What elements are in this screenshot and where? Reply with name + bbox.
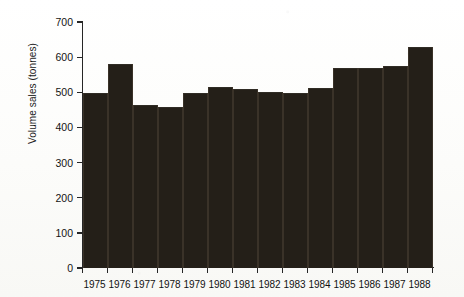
y-tick-label: 700	[55, 16, 73, 28]
x-tick-label-1980: 1980	[208, 279, 230, 290]
bar-1981	[233, 89, 258, 268]
x-tick-mark	[407, 268, 408, 273]
y-tick-mark	[77, 92, 82, 93]
x-tick-label-1977: 1977	[133, 279, 155, 290]
x-tick-mark	[282, 268, 283, 273]
y-axis-title: Volume sales (tonnes)	[27, 24, 38, 164]
x-tick-label-1985: 1985	[333, 279, 355, 290]
x-tick-mark	[257, 268, 258, 273]
x-tick-label-1984: 1984	[308, 279, 330, 290]
bar-1980	[208, 87, 233, 268]
bar-1976	[108, 64, 133, 268]
x-tick-mark	[132, 268, 133, 273]
bar-1986	[358, 68, 383, 268]
y-tick-label: 0	[67, 262, 73, 274]
y-tick-label: 500	[55, 86, 73, 98]
bar-chart-figure: Volume sales (tonnes) 010020030040050060…	[0, 0, 464, 297]
y-tick-label: 100	[55, 227, 73, 239]
y-tick-mark	[77, 21, 82, 22]
y-tick-mark	[77, 162, 82, 163]
y-tick-label: 300	[55, 157, 73, 169]
plot-area: 0100200300400500600700 19751976197719781…	[82, 22, 432, 268]
x-tick-label-1976: 1976	[108, 279, 130, 290]
x-tick-mark	[157, 268, 158, 273]
bar-1983	[283, 93, 308, 268]
x-tick-label-1988: 1988	[408, 279, 430, 290]
x-tick-mark	[82, 268, 83, 273]
x-tick-label-1978: 1978	[158, 279, 180, 290]
x-tick-label-1981: 1981	[233, 279, 255, 290]
x-tick-label-1987: 1987	[383, 279, 405, 290]
y-tick-mark	[77, 127, 82, 128]
bar-1987	[383, 66, 408, 268]
x-tick-label-1986: 1986	[358, 279, 380, 290]
bar-1979	[183, 93, 208, 268]
bar-1988	[408, 47, 433, 268]
y-tick-label: 600	[55, 51, 73, 63]
x-tick-label-1975: 1975	[83, 279, 105, 290]
bar-1984	[308, 88, 333, 268]
bar-1978	[158, 107, 183, 268]
x-tick-mark	[232, 268, 233, 273]
x-tick-label-1983: 1983	[283, 279, 305, 290]
x-tick-mark	[207, 268, 208, 273]
bar-1985	[333, 68, 358, 268]
y-tick-label: 400	[55, 121, 73, 133]
x-tick-mark	[357, 268, 358, 273]
y-tick-mark	[77, 57, 82, 58]
x-tick-mark	[332, 268, 333, 273]
x-tick-mark	[182, 268, 183, 273]
bar-1975	[83, 93, 108, 268]
x-tick-mark	[382, 268, 383, 273]
bar-1977	[133, 105, 158, 268]
y-tick-label: 200	[55, 192, 73, 204]
y-tick-mark	[77, 232, 82, 233]
y-tick-mark	[77, 197, 82, 198]
x-tick-label-1982: 1982	[258, 279, 280, 290]
x-tick-mark-end	[432, 268, 433, 273]
x-tick-mark	[107, 268, 108, 273]
x-tick-label-1979: 1979	[183, 279, 205, 290]
x-tick-mark	[307, 268, 308, 273]
bar-1982	[258, 92, 283, 268]
